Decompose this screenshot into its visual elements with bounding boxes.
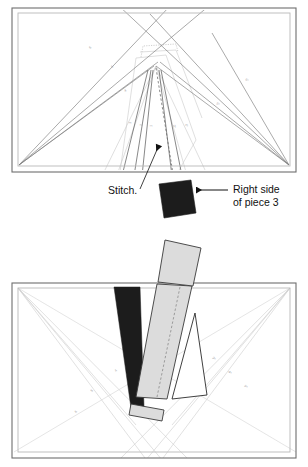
right-side-label-line2: of piece 3 <box>233 196 279 208</box>
top-seams-from-right <box>118 5 289 165</box>
stitch-label: Stitch. <box>108 184 137 196</box>
section-number: 4* <box>227 370 233 376</box>
top-frame-outer <box>12 8 296 172</box>
top-ghost-outline <box>141 44 178 57</box>
right-side-annotation: Right side of piece 3 <box>196 183 280 208</box>
bottom-diagram: 5 6 4 3* 4* 5* <box>12 240 296 467</box>
section-number: 3* <box>172 124 177 129</box>
section-number: 3 <box>128 121 132 124</box>
section-number: 4 <box>114 369 118 373</box>
section-number: 1 <box>149 125 153 128</box>
top-section-numbers: 6 5 4 3 2 1 3* 4* 5* 6* <box>88 45 250 129</box>
section-number: 4 <box>124 88 128 92</box>
top-dark-fabric-piece <box>159 180 196 218</box>
figure-root: 6 5 4 3 2 1 3* 4* 5* 6* Stitch. <box>0 0 308 467</box>
bottom-small-strip-piece <box>129 404 164 421</box>
bottom-top-quad-piece <box>158 240 201 286</box>
top-guide-lines: 6 5 4 3 2 1 3* 4* 5* 6* <box>19 5 289 180</box>
right-side-label-line1: Right side <box>233 183 280 195</box>
section-number: 6* <box>244 78 249 84</box>
top-frame-inner <box>18 13 290 166</box>
stitch-annotation: Stitch. <box>108 145 159 196</box>
section-number: 5* <box>215 101 220 106</box>
top-diagram: 6 5 4 3 2 1 3* 4* 5* 6* Stitch. <box>12 5 296 218</box>
section-number: 6 <box>88 45 92 49</box>
section-number: 6 <box>74 410 78 414</box>
diagram-canvas: 6 5 4 3 2 1 3* 4* 5* 6* Stitch. <box>0 0 308 467</box>
section-number: 5* <box>243 384 249 390</box>
section-number: 3* <box>211 356 217 362</box>
